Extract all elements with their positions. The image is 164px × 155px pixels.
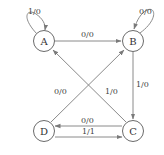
transition-a-a: 1/0 <box>27 7 45 34</box>
state-c: C <box>123 121 144 142</box>
state-diagram: 1/0 0/0 0/0 1/0 1/0 0/0 0/0 1/1 A <box>0 0 164 155</box>
transition-label: 0/0 <box>139 7 152 16</box>
transition-label: 1/0 <box>136 80 149 89</box>
state-a: A <box>34 31 55 52</box>
state-d: D <box>34 121 55 142</box>
state-label: D <box>40 126 48 137</box>
state-b: B <box>123 31 144 52</box>
transition-d-b: 0/0 <box>51 50 124 122</box>
transition-c-a: 1/0 <box>53 50 126 122</box>
transition-label: 0/0 <box>81 30 94 39</box>
transition-label: 1/0 <box>28 7 41 16</box>
transition-label: 0/0 <box>81 116 94 125</box>
transition-label: 1/0 <box>105 87 118 96</box>
transition-b-b: 0/0 <box>134 7 154 33</box>
state-label: A <box>39 36 48 47</box>
state-label: B <box>129 36 136 47</box>
transition-d-c: 1/1 <box>55 127 122 137</box>
transition-b-c: 1/0 <box>133 52 149 119</box>
transition-label: 1/1 <box>82 127 95 136</box>
transition-label: 0/0 <box>54 87 67 96</box>
transition-a-b: 0/0 <box>55 30 121 41</box>
state-label: C <box>129 126 137 137</box>
transition-c-d: 0/0 <box>55 116 122 126</box>
